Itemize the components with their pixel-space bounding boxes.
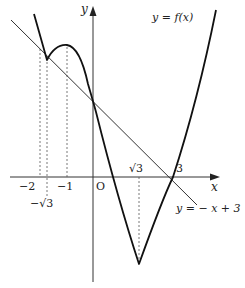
tick-label-neg-sqrt3: −√3 xyxy=(30,197,53,210)
y-axis-arrow-icon xyxy=(90,6,97,16)
tick-label-3: 3 xyxy=(176,162,183,175)
curve-f xyxy=(34,10,216,264)
tick-label-neg2: −2 xyxy=(19,180,35,193)
x-axis-label: x xyxy=(211,180,218,194)
line-label: y = − x + 3 xyxy=(175,202,241,215)
tick-label-sqrt3: √3 xyxy=(129,162,143,175)
y-axis-label: y xyxy=(80,2,88,16)
origin-label: O xyxy=(96,180,105,193)
curve-label: y = f(x) xyxy=(151,11,193,24)
tick-label-neg1: −1 xyxy=(57,180,73,193)
function-graph: y x O −2 −√3 −1 √3 3 y = f(x) y = − x + … xyxy=(0,0,245,288)
